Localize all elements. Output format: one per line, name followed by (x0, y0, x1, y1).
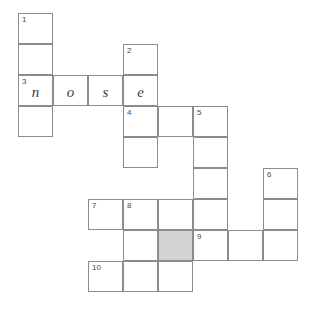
crossword-cell[interactable]: 10 (88, 261, 123, 292)
crossword-cell-letter: s (89, 76, 122, 105)
crossword-cell[interactable] (158, 261, 193, 292)
crossword-cell[interactable]: 9 (193, 230, 228, 261)
crossword-clue-number: 9 (197, 232, 201, 241)
crossword-cell[interactable]: 5 (193, 106, 228, 137)
crossword-clue-number: 1 (22, 15, 26, 24)
crossword-cell-letter: e (124, 76, 157, 105)
crossword-cell[interactable]: 2 (123, 44, 158, 75)
crossword-clue-number: 5 (197, 108, 201, 117)
crossword-cell[interactable]: o (53, 75, 88, 106)
crossword-cell[interactable] (193, 168, 228, 199)
crossword-cell[interactable]: e (123, 75, 158, 106)
crossword-cell[interactable] (123, 230, 158, 261)
crossword-cell[interactable] (123, 261, 158, 292)
crossword-cell[interactable]: 8 (123, 199, 158, 230)
crossword-cell[interactable] (18, 44, 53, 75)
crossword-cell[interactable] (18, 106, 53, 137)
crossword-clue-number: 4 (127, 108, 131, 117)
crossword-cell[interactable] (193, 199, 228, 230)
crossword-cell[interactable]: 7 (88, 199, 123, 230)
crossword-cell[interactable] (228, 230, 263, 261)
crossword-cell[interactable] (263, 199, 298, 230)
crossword-cell[interactable] (263, 230, 298, 261)
crossword-clue-number: 6 (267, 170, 271, 179)
crossword-cell[interactable] (193, 137, 228, 168)
crossword-clue-number: 7 (92, 201, 96, 210)
crossword-cell[interactable] (123, 137, 158, 168)
crossword-puzzle-grid: 1n3os2e45678910 (0, 0, 328, 310)
crossword-cell[interactable] (158, 106, 193, 137)
crossword-cell[interactable]: 1 (18, 13, 53, 44)
crossword-cell[interactable]: 4 (123, 106, 158, 137)
crossword-clue-number: 3 (22, 77, 26, 86)
crossword-clue-number: 8 (127, 201, 131, 210)
crossword-cell[interactable] (158, 199, 193, 230)
crossword-clue-number: 2 (127, 46, 131, 55)
crossword-cell[interactable]: n3 (18, 75, 53, 106)
crossword-cell-letter: o (54, 76, 87, 105)
crossword-cell[interactable]: 6 (263, 168, 298, 199)
crossword-cell[interactable]: s (88, 75, 123, 106)
crossword-cell-shaded[interactable] (158, 230, 193, 261)
crossword-clue-number: 10 (92, 263, 101, 272)
